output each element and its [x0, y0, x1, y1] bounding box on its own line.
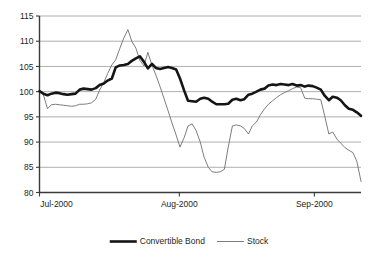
chart-canvas: 80859095100105110115 Jul-2000Aug-2000Sep… [0, 0, 378, 265]
legend-label-stock: Stock [247, 236, 269, 246]
x-axis-tick-label: Aug-2000 [161, 199, 198, 209]
y-axis-tick-label: 110 [20, 36, 34, 46]
y-axis-tick-label: 80 [24, 188, 34, 198]
x-axis-tick-label: Jul-2000 [40, 199, 73, 209]
y-axis-tick-label: 115 [20, 11, 34, 21]
x-axis-tick-label: Sep-2000 [296, 199, 333, 209]
chart-background [0, 0, 378, 265]
legend-label-convertible-bond: Convertible Bond [140, 236, 205, 246]
y-axis-tick-label: 85 [24, 162, 34, 172]
y-axis-tick-label: 100 [19, 87, 33, 97]
y-axis-tick-label: 95 [24, 112, 34, 122]
line-chart: 80859095100105110115 Jul-2000Aug-2000Sep… [0, 0, 378, 265]
y-axis-tick-label: 105 [19, 62, 33, 72]
y-axis-tick-label: 90 [24, 137, 34, 147]
